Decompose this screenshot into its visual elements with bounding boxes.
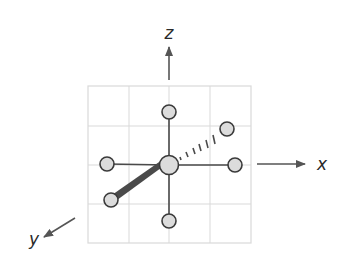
z-axis: z — [164, 23, 175, 80]
y-axis-label: y — [28, 229, 40, 249]
atom-lower-left — [104, 193, 118, 207]
y-axis-arrow — [44, 218, 75, 237]
atom-right — [228, 158, 242, 172]
atom-left — [100, 157, 114, 171]
atom-top — [162, 105, 176, 119]
atom-central — [160, 156, 179, 175]
atom-upper-right — [220, 122, 234, 136]
atom-bottom — [162, 214, 176, 228]
x-axis-label: x — [316, 154, 328, 174]
x-axis: x — [257, 154, 328, 174]
octahedral-diagram: z x y — [0, 0, 344, 257]
atoms — [100, 105, 242, 228]
y-axis: y — [28, 218, 75, 249]
z-axis-label: z — [164, 23, 175, 43]
